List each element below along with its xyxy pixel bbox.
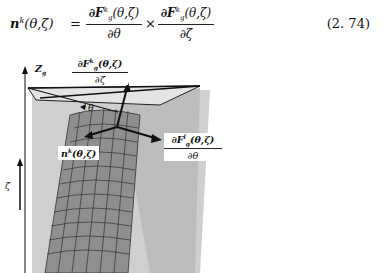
surface-diagram (0, 55, 382, 273)
dF-dzeta-label: ∂Fkg(θ,ζ) ∂ζ (72, 57, 128, 85)
equation-lhs: nk(θ,ζ) (10, 16, 53, 31)
zeta-axis-label: ζ (5, 180, 10, 191)
fraction-dtheta: ∂Fkg(θ,ζ) ∂θ (86, 6, 142, 41)
normal-vector-label: nk(θ,ζ) (58, 146, 99, 160)
z-axis-label: Zg (35, 63, 46, 76)
times-sign: × (145, 16, 156, 31)
dF-dtheta-label: ∂Flg(θ,ζ) ∂θ (164, 133, 222, 161)
equals-sign: = (70, 16, 81, 31)
equation-number: (2. 74) (327, 16, 370, 31)
surface-figure: Zg ζ θ ∂Fkg(θ,ζ) ∂ζ ∂Flg(θ,ζ) ∂θ nk(θ,ζ) (0, 55, 382, 273)
theta-label: θ (88, 102, 94, 113)
equation-2-74: nk(θ,ζ) = ∂Fkg(θ,ζ) ∂θ × ∂Fkg(θ,ζ) ∂ζ (2… (0, 6, 382, 50)
fraction-dzeta: ∂Fkg(θ,ζ) ∂ζ (158, 6, 214, 41)
